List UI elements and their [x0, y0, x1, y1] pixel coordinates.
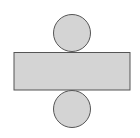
bottom-circle-face	[54, 91, 91, 128]
top-circle-face	[54, 15, 91, 52]
lateral-surface-rectangle	[14, 53, 130, 91]
cylinder-net-diagram	[0, 0, 140, 138]
